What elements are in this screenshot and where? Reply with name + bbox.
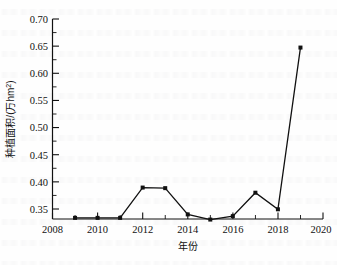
axis-lines: [53, 19, 324, 219]
y-axis-title-main: 种植面积/(万hm: [4, 88, 16, 158]
y-tick-label: 0.60: [30, 68, 48, 79]
data-point-marker: [298, 46, 302, 50]
series-markers: [73, 46, 302, 222]
x-tick-label: 2016: [222, 224, 243, 235]
line-chart: 0.70 0.65 0.60 0.55 0.50 0.45 0.40 0.35 …: [0, 0, 337, 265]
x-axis-title: 年份: [178, 240, 198, 252]
y-tick-label: 0.40: [30, 177, 48, 188]
data-point-marker: [163, 186, 167, 190]
x-tick-labels: 2008 2010 2012 2014 2016 2018 2020: [42, 224, 332, 235]
data-point-marker: [186, 212, 190, 216]
x-tick-label: 2012: [132, 224, 153, 235]
y-tick-label: 0.70: [30, 14, 48, 25]
svg-text:种植面积/(万hm2): 种植面积/(万hm2): [4, 80, 16, 157]
y-axis-title-tail: ): [5, 80, 16, 83]
data-point-marker: [253, 191, 257, 195]
data-point-marker: [208, 218, 212, 222]
x-tick-label: 2014: [177, 224, 199, 235]
x-tick-label: 2010: [87, 224, 108, 235]
data-point-marker: [118, 216, 122, 220]
data-point-marker: [231, 214, 235, 218]
y-tick-label: 0.35: [30, 204, 48, 215]
y-axis-title: 种植面积/(万hm2): [4, 80, 16, 157]
y-tick-label: 0.55: [30, 95, 48, 106]
x-tick-label: 2020: [311, 224, 332, 235]
x-tick-label: 2018: [268, 224, 289, 235]
y-tick-label: 0.50: [30, 122, 48, 133]
y-tick-label: 0.45: [30, 150, 48, 161]
y-tick-labels: 0.70 0.65 0.60 0.55 0.50 0.45 0.40 0.35: [30, 14, 48, 215]
x-tick-label: 2008: [42, 224, 63, 235]
data-point-marker: [73, 216, 77, 220]
data-point-marker: [141, 186, 145, 190]
data-point-marker: [276, 207, 280, 211]
data-series-planting-area: [73, 46, 302, 222]
data-point-marker: [96, 216, 100, 220]
y-tick-label: 0.65: [30, 41, 48, 52]
chart-page: 0.70 0.65 0.60 0.55 0.50 0.45 0.40 0.35 …: [0, 0, 337, 265]
series-line: [75, 48, 300, 220]
